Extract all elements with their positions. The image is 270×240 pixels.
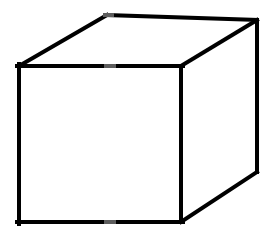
figure-canvas — [0, 0, 270, 240]
cube-face-front — [19, 66, 181, 222]
cube-diagram — [0, 0, 270, 240]
